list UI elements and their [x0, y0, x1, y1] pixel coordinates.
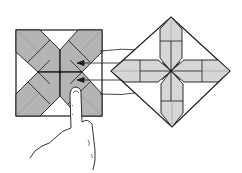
- diagram-canvas: [0, 0, 242, 173]
- left-square-figure: [16, 30, 102, 116]
- diamond-center-point: [170, 70, 173, 73]
- right-diamond-figure: [111, 17, 230, 127]
- center-point: [59, 71, 62, 74]
- origami-diagram: [0, 0, 242, 173]
